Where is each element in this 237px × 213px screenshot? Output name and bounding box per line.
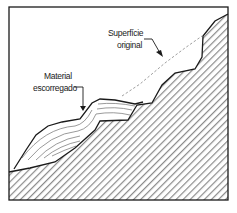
label-original-surface-line2: original bbox=[117, 40, 142, 50]
label-original-surface-line1: Superfície bbox=[108, 28, 144, 38]
arrow-head-icon bbox=[156, 50, 163, 57]
original-surface-arrow bbox=[144, 39, 160, 53]
arrow-head-icon bbox=[80, 106, 86, 111]
label-slid-material-line2: escorregado bbox=[33, 83, 78, 93]
landslide-diagram: Superfície original Material escorregado bbox=[0, 0, 237, 213]
label-slid-material-line1: Material bbox=[44, 71, 72, 81]
